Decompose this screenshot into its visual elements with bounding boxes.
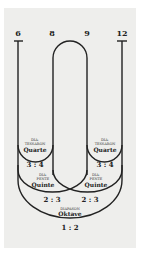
number-8: 8 (49, 28, 55, 38)
interval-name-oktave: Oktave (58, 210, 82, 217)
interval-name-quinte-right: Quinte (85, 181, 108, 189)
ratio-quinte-right: 2 : 3 (81, 195, 98, 204)
ratio-oktave: 1 : 2 (61, 223, 78, 232)
ratio-quinte-left: 2 : 3 (43, 195, 60, 204)
number-6: 6 (15, 28, 21, 38)
number-9: 9 (84, 28, 90, 38)
interval-name-quinte-left: Quinte (32, 181, 55, 189)
ratio-quarte-left: 3 : 4 (26, 160, 43, 169)
arch-8-9 (53, 41, 87, 175)
interval-name-quarte-right: Quarte (93, 146, 116, 154)
number-12: 12 (116, 28, 127, 38)
interval-name-quarte-left: Quarte (23, 146, 46, 154)
ratio-quarte-right: 3 : 4 (96, 160, 113, 169)
interval-diagram: 6 8 9 12 DIA- TESSARON Quarte 3 : 4 DIA-… (0, 0, 142, 258)
